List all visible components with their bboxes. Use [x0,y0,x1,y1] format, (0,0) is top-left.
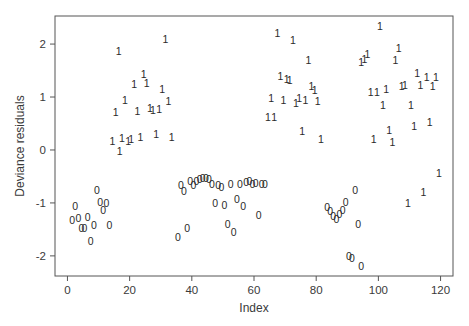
y-tick-label: 0 [40,144,46,156]
data-point-1: 1 [150,104,156,116]
x-axis: 020406080100120 [64,276,450,296]
data-point-1: 1 [134,105,140,117]
data-point-0: 0 [225,218,231,230]
residual-scatter-chart: 020406080100120 -2-1012 0000000000000000… [0,0,469,326]
data-point-1: 1 [117,145,123,157]
data-point-1: 1 [274,27,280,39]
data-point-0: 0 [237,178,243,190]
data-point-1: 1 [417,79,423,91]
data-point-1: 1 [421,186,427,198]
data-point-1: 1 [424,71,430,83]
data-point-1: 1 [299,125,305,137]
data-point-0: 0 [88,235,94,247]
data-point-0: 0 [256,209,262,221]
data-point-0: 0 [181,185,187,197]
data-point-1: 1 [365,48,371,60]
data-point-0: 0 [184,222,190,234]
data-point-1: 1 [427,116,433,128]
data-point-1: 1 [318,133,324,145]
data-point-1: 1 [281,94,287,106]
data-points: 0000000000000000000000000000000000000000… [69,20,442,272]
data-point-0: 0 [222,199,228,211]
data-point-1: 1 [402,79,408,91]
data-point-1: 1 [290,34,296,46]
data-point-1: 1 [169,131,175,143]
data-point-0: 0 [103,197,109,209]
y-tick-label: -2 [36,250,46,262]
data-point-0: 0 [94,184,100,196]
data-point-1: 1 [287,74,293,86]
x-axis-title: Index [239,301,268,315]
data-point-0: 0 [231,226,237,238]
data-point-0: 0 [82,222,88,234]
data-point-0: 0 [175,231,181,243]
x-tick-label: 100 [369,284,388,296]
data-point-0: 0 [349,252,355,264]
data-point-1: 1 [162,33,168,45]
data-point-1: 1 [131,78,137,90]
x-tick-label: 20 [123,284,136,296]
data-point-0: 0 [212,197,218,209]
data-point-0: 0 [343,196,349,208]
x-tick-label: 120 [431,284,450,296]
y-tick-label: -1 [36,197,46,209]
y-axis-title: Deviance residuals [13,95,27,196]
data-point-1: 1 [374,86,380,98]
data-point-1: 1 [414,67,420,79]
data-point-0: 0 [358,260,364,272]
data-point-0: 0 [228,178,234,190]
data-point-1: 1 [302,94,308,106]
data-point-1: 1 [268,92,274,104]
data-point-1: 1 [371,133,377,145]
data-point-0: 0 [91,219,97,231]
data-point-1: 1 [122,94,128,106]
data-point-1: 1 [110,135,116,147]
data-point-0: 0 [352,184,358,196]
data-point-0: 0 [72,200,78,212]
x-tick-label: 0 [64,284,70,296]
data-point-1: 1 [380,99,386,111]
data-point-1: 1 [113,106,119,118]
data-point-1: 1 [271,111,277,123]
data-point-0: 0 [240,200,246,212]
data-point-1: 1 [396,42,402,54]
data-point-1: 1 [153,128,159,140]
data-point-1: 1 [368,86,374,98]
data-point-1: 1 [377,20,383,32]
data-point-1: 1 [433,71,439,83]
data-point-0: 0 [218,181,224,193]
x-tick-label: 40 [185,284,198,296]
data-point-1: 1 [408,99,414,111]
data-point-0: 0 [85,211,91,223]
y-tick-label: 2 [40,38,46,50]
data-point-0: 0 [106,219,112,231]
data-point-1: 1 [386,124,392,136]
data-point-1: 1 [436,167,442,179]
data-point-0: 0 [69,214,75,226]
data-point-1: 1 [159,83,165,95]
data-point-0: 0 [355,218,361,230]
data-point-1: 1 [265,111,271,123]
data-point-1: 1 [383,83,389,95]
data-point-1: 1 [119,132,125,144]
y-tick-label: 1 [40,91,46,103]
x-tick-label: 60 [248,284,261,296]
data-point-1: 1 [315,95,321,107]
data-point-1: 1 [305,54,311,66]
data-point-1: 1 [296,92,302,104]
data-point-0: 0 [262,178,268,190]
data-point-1: 1 [312,84,318,96]
y-axis: -2-1012 [36,38,55,262]
data-point-1: 1 [166,95,172,107]
data-point-0: 0 [209,178,215,190]
data-point-1: 1 [144,77,150,89]
data-point-1: 1 [405,197,411,209]
data-point-0: 0 [253,177,259,189]
data-point-1: 1 [411,120,417,132]
data-point-1: 1 [393,54,399,66]
data-point-1: 1 [156,103,162,115]
x-tick-label: 80 [310,284,323,296]
data-point-1: 1 [278,70,284,82]
data-point-1: 1 [389,136,395,148]
data-point-0: 0 [234,193,240,205]
